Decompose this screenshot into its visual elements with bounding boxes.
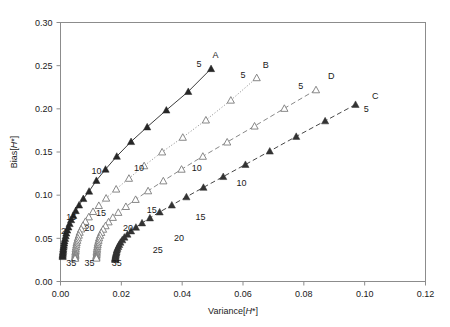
x-tick-label: 0.06	[234, 289, 252, 299]
data-point-open-triangle	[158, 148, 165, 155]
data-point-filled-triangle	[75, 201, 82, 208]
annotation-D: D	[328, 71, 335, 81]
data-point-open-triangle	[132, 196, 139, 203]
annotation-10: 10	[91, 166, 101, 176]
y-tick-label: 0.05	[35, 234, 53, 244]
data-point-filled-triangle	[168, 201, 175, 208]
data-point-open-triangle	[178, 166, 185, 173]
data-point-open-triangle	[145, 187, 152, 194]
data-point-open-triangle	[281, 105, 288, 112]
data-point-open-triangle	[122, 203, 129, 210]
annotation-35: 35	[66, 258, 76, 268]
annotation-15: 15	[66, 212, 76, 222]
x-tick-label: 0.02	[113, 289, 131, 299]
annotation-25: 25	[153, 245, 163, 255]
y-tick-label: 0.00	[35, 277, 53, 287]
annotation-15: 15	[96, 208, 106, 218]
data-point-filled-triangle	[183, 193, 190, 200]
data-point-filled-triangle	[220, 173, 227, 180]
y-tick-label: 0.30	[35, 18, 53, 28]
annotation-A: A	[213, 50, 219, 60]
annotation-35: 35	[112, 258, 122, 268]
data-point-filled-triangle	[293, 133, 300, 140]
x-tick-label: 0.00	[52, 289, 70, 299]
data-point-filled-triangle	[322, 117, 329, 124]
data-point-filled-triangle	[138, 219, 145, 226]
annotation-B: B	[263, 60, 269, 70]
annotation-20: 20	[84, 223, 94, 233]
data-point-open-triangle	[202, 116, 209, 123]
annotation-15: 15	[147, 205, 157, 215]
annotation-15: 15	[195, 212, 205, 222]
y-axis-label: Bias[H*]	[9, 136, 19, 169]
annotation-20: 20	[174, 233, 184, 243]
data-point-open-triangle	[251, 123, 258, 130]
annotation-5: 5	[364, 104, 369, 114]
data-point-filled-triangle	[132, 224, 139, 231]
annotation-5: 5	[196, 59, 201, 69]
data-point-open-triangle	[224, 138, 231, 145]
y-tick-label: 0.20	[35, 104, 53, 114]
plot-frame	[61, 23, 426, 282]
annotation-10: 10	[192, 163, 202, 173]
data-point-open-triangle	[253, 74, 260, 81]
annotation-5: 5	[298, 81, 303, 91]
x-tick-label: 0.10	[356, 289, 374, 299]
annotation-35: 35	[84, 258, 94, 268]
data-point-filled-triangle	[146, 214, 153, 221]
x-tick-label: 0.08	[295, 289, 313, 299]
x-tick-label: 0.04	[173, 289, 191, 299]
x-tick-label: 0.12	[417, 289, 435, 299]
data-point-open-triangle	[199, 153, 206, 160]
plot-canvas: 0.000.020.040.060.080.100.120.000.050.10…	[0, 0, 450, 327]
annotation-5: 5	[240, 70, 245, 80]
annotation-10: 10	[134, 163, 144, 173]
y-tick-label: 0.15	[35, 147, 53, 157]
chart-figure: 0.000.020.040.060.080.100.120.000.050.10…	[0, 0, 450, 327]
annotation-2: 2	[61, 226, 66, 236]
data-point-open-triangle	[312, 86, 319, 93]
y-tick-label: 0.25	[35, 61, 53, 71]
x-axis-label: Variance[H*]	[208, 306, 258, 316]
data-point-filled-triangle	[156, 208, 163, 215]
data-point-filled-triangle	[242, 161, 249, 168]
y-tick-label: 0.10	[35, 190, 53, 200]
data-point-filled-triangle	[200, 184, 207, 191]
data-point-open-triangle	[115, 209, 122, 216]
data-point-filled-triangle	[352, 101, 359, 108]
annotation-10: 10	[236, 178, 246, 188]
annotation-20: 20	[123, 223, 133, 233]
data-point-filled-triangle	[207, 65, 214, 72]
data-point-open-triangle	[160, 177, 167, 184]
data-point-filled-triangle	[85, 188, 92, 195]
data-point-open-triangle	[113, 186, 120, 193]
series-line-C	[115, 105, 355, 260]
annotation-C: C	[372, 91, 379, 101]
data-point-filled-triangle	[266, 148, 273, 155]
data-point-open-triangle	[179, 134, 186, 141]
